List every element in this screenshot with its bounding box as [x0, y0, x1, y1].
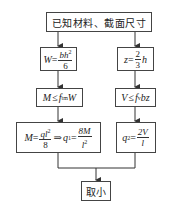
equals-sign: = — [130, 132, 136, 143]
start-box: 已知材料、截面尺寸 — [46, 12, 152, 32]
denominator: 8 — [43, 140, 48, 150]
leq-sign: ≤ — [128, 92, 134, 103]
m-symbol: M — [43, 92, 51, 103]
fraction-bh2-over-6: bh2 6 — [58, 47, 72, 71]
bz-symbol: bz — [141, 92, 150, 103]
exponent: 2 — [84, 139, 87, 145]
exponent: 2 — [68, 49, 71, 55]
denominator: 3 — [136, 60, 141, 70]
fraction-8m-over-l2: 8M l2 — [78, 126, 92, 150]
fraction-2-over-3: 2 3 — [135, 49, 142, 70]
denominator: l — [142, 138, 145, 148]
v-symbol: V — [121, 92, 127, 103]
moment-condition-box: M ≤ ftm W — [36, 88, 83, 107]
end-box: 取小 — [81, 181, 111, 201]
denominator: 6 — [63, 61, 68, 71]
merge-line — [58, 152, 135, 168]
equals-sign: = — [52, 54, 58, 65]
load-q1-box: M = ql2 8 ⇒ q1 = 8M l2 — [16, 122, 101, 153]
implies-arrow: ⇒ — [53, 132, 61, 143]
numerator: 2V — [137, 127, 149, 138]
numerator: 2 — [135, 49, 142, 60]
w-symbol: W — [68, 92, 76, 103]
start-label: 已知材料、截面尺寸 — [52, 15, 147, 30]
lever-arm-box: z = 2 3 h — [117, 47, 154, 71]
end-label: 取小 — [86, 184, 107, 199]
numerator: 8M — [78, 126, 92, 137]
shear-condition-box: V ≤ fv bz — [115, 88, 156, 107]
h-symbol: h — [142, 54, 147, 65]
exponent: 2 — [47, 128, 50, 134]
leq-sign: ≤ — [52, 92, 58, 103]
equals-sign: = — [33, 132, 39, 143]
fraction-2v-over-l: 2V l — [137, 127, 149, 148]
section-modulus-box: W = bh2 6 — [40, 47, 77, 71]
equals-sign: = — [71, 132, 77, 143]
m-symbol: M — [24, 132, 32, 143]
equals-sign: = — [128, 54, 134, 65]
w-symbol: W — [44, 54, 52, 65]
load-q2-box: q2 = 2V l — [116, 122, 156, 153]
fraction-ql2-over-8: ql2 8 — [39, 126, 51, 150]
